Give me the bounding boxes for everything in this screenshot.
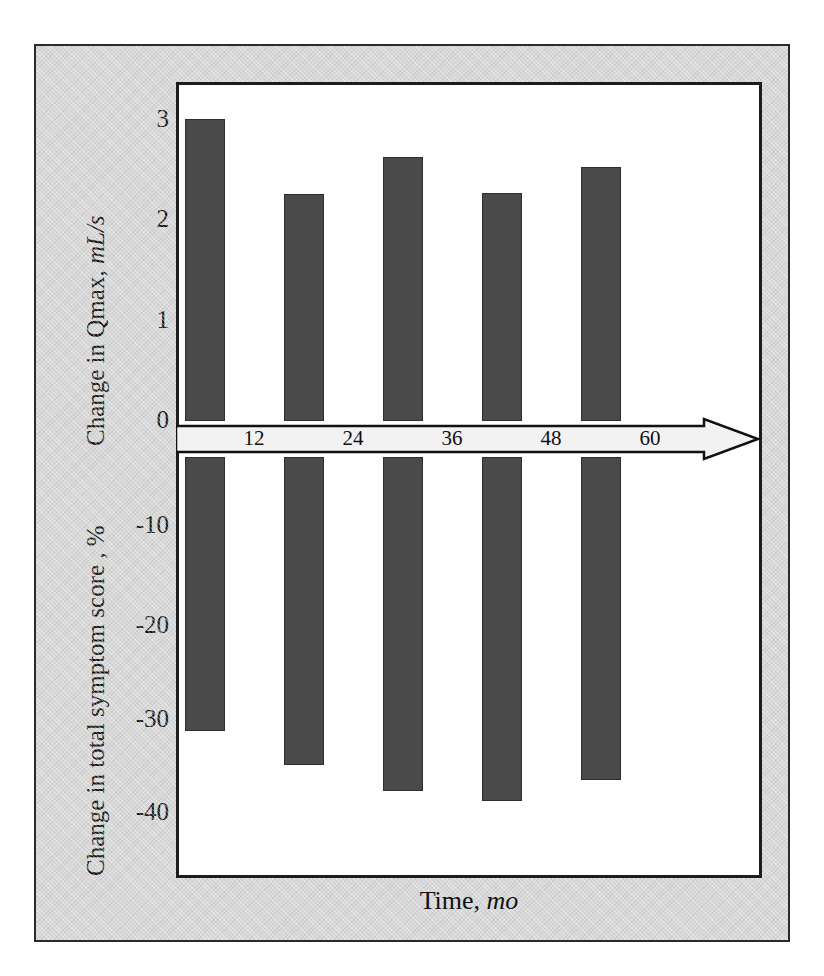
y-tick-minus-20-text: -20 bbox=[136, 611, 169, 638]
bar-qmax-24mo bbox=[284, 194, 324, 421]
x-axis-label: Time, mo bbox=[176, 886, 762, 916]
bar-symptom-score-48mo bbox=[482, 457, 522, 801]
bar-qmax-36mo bbox=[383, 157, 423, 421]
x-axis-label-plain: Time, bbox=[420, 886, 480, 915]
bar-qmax-60mo bbox=[581, 167, 621, 421]
bar-symptom-score-60mo bbox=[581, 457, 621, 780]
bar-qmax-12mo bbox=[185, 119, 225, 421]
y-tick-minus-10-text: -10 bbox=[136, 511, 169, 538]
y-tick-minus-30-text: -30 bbox=[136, 705, 169, 732]
plot-area: 1224364860 bbox=[179, 85, 759, 875]
plot-panel: 1224364860 bbox=[176, 82, 762, 878]
y-tick-1-text: 1 bbox=[157, 306, 170, 333]
bar-symptom-score-36mo bbox=[383, 457, 423, 791]
x-tick-12: 12 bbox=[244, 426, 265, 451]
bar-symptom-score-12mo bbox=[185, 457, 225, 731]
bar-qmax-48mo bbox=[482, 193, 522, 421]
x-axis-label-italic: mo bbox=[487, 886, 519, 915]
x-tick-36: 36 bbox=[442, 426, 463, 451]
figure-container: Change in Qmax, mL/s Change in total sym… bbox=[0, 0, 824, 976]
y-tick-minus-40-text: -40 bbox=[136, 798, 169, 825]
x-tick-60: 60 bbox=[640, 426, 661, 451]
y-tick-2-text: 2 bbox=[157, 205, 170, 232]
y-tick-0-text: 0 bbox=[157, 406, 170, 433]
y-tick-3-text: 3 bbox=[157, 105, 170, 132]
x-tick-48: 48 bbox=[541, 426, 562, 451]
bar-symptom-score-24mo bbox=[284, 457, 324, 765]
x-tick-24: 24 bbox=[343, 426, 364, 451]
